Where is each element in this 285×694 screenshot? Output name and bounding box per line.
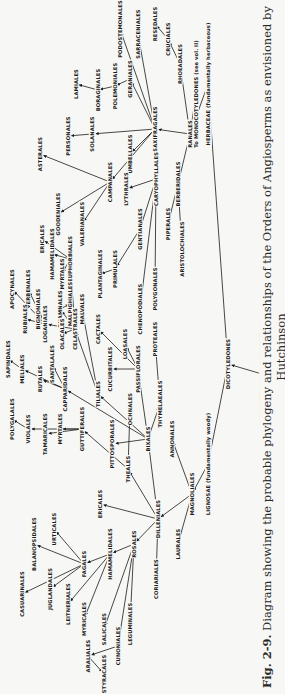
node-rubiales: RUBIALES bbox=[22, 304, 28, 334]
node-rutales: RUTALES bbox=[37, 366, 43, 393]
edge-saxifragales-to-campanales bbox=[113, 129, 155, 179]
node-balanopsidales: BALANOPSIDALES bbox=[31, 517, 37, 571]
edge-capparidales-to-meliales bbox=[26, 371, 65, 389]
node-ericales-top: ERICALES bbox=[39, 225, 45, 254]
edge-guttiferales-to-tamaricales bbox=[49, 429, 82, 433]
node-thymelaeales: THYMELAEALES bbox=[157, 380, 163, 427]
node-bignoniales: BIGNONIALES bbox=[35, 288, 41, 329]
node-apocynales: APOCYNALES bbox=[9, 269, 15, 309]
node-berberidales: BERBERIDALES bbox=[175, 161, 181, 206]
node-leitneriales: LEITNERIALES bbox=[65, 583, 71, 625]
node-aristolochiales: ARISTOLOCHIALES bbox=[179, 221, 185, 276]
node-casuarinales: CASUARINALES bbox=[19, 571, 25, 617]
node-styracales: STYRACALES bbox=[101, 655, 107, 694]
node-geraniales: GERANIALES bbox=[127, 60, 133, 98]
node-caryophyllales: CARYOPHYLLALES bbox=[153, 152, 159, 206]
node-juglandales: JUGLANDALES bbox=[47, 568, 54, 611]
node-santalales: SANTALALES bbox=[49, 345, 55, 383]
node-salicales: SALICALES bbox=[101, 613, 107, 645]
node-fagales: FAGALES bbox=[81, 551, 87, 578]
edge-hypothetical_proangiosperms-to-dicotyledones bbox=[232, 365, 260, 374]
node-magnoliales: MAGNOLIALES bbox=[189, 472, 195, 515]
node-podostemonales: PODOSTEMONALES bbox=[117, 0, 123, 58]
edge-bixales-to-pittosporales bbox=[116, 439, 148, 443]
edge-fagales-to-balanopsidales bbox=[38, 545, 84, 564]
node-euphorbiales: EUPHORBIALES bbox=[67, 236, 73, 282]
node-ranales: RANALES bbox=[187, 120, 193, 148]
node-polemoniales: POLEMONIALES bbox=[112, 62, 118, 109]
node-ericales: ERICALES bbox=[97, 490, 103, 519]
edge-campanales-to-asterales bbox=[44, 155, 110, 182]
node-boraginales: BORAGINALES bbox=[95, 69, 101, 112]
node-resedales: RESEDALES bbox=[152, 7, 158, 42]
node-asterales: ASTERALES bbox=[37, 137, 43, 171]
node-lamiales: LAMIALES bbox=[73, 69, 79, 99]
edge-magnoliales-to-dilleniales bbox=[161, 494, 192, 517]
node-guttiferales: GUTTIFERALES bbox=[79, 407, 85, 452]
phylogeny-diagram: HYPOTHETICAL PROANGIOSPERMSDICOTYLEDONES… bbox=[0, 0, 285, 694]
node-cruciales: CRUCIALES bbox=[165, 22, 171, 55]
node-herbaceae: HERBACEAE (fundamentally herbaceous) bbox=[205, 22, 212, 145]
edge-campanales-to-goodeniales bbox=[61, 182, 110, 212]
node-tiliales: TILIALES bbox=[95, 381, 101, 407]
node-urticales: URTICALES bbox=[51, 512, 57, 545]
node-sapindales: SAPINDALES bbox=[5, 340, 11, 378]
node-coriariales: CORIARIALES bbox=[153, 559, 159, 599]
node-myricales: MYRICALES bbox=[81, 602, 87, 636]
node-violales: VIOLALES bbox=[25, 414, 31, 443]
node-tamaricales: TAMARICALES bbox=[42, 413, 48, 455]
node-loasales: LOASALES bbox=[122, 329, 128, 360]
node-leguminales: LEGUMINALES bbox=[127, 603, 133, 646]
node-laurales: LAURALES bbox=[175, 528, 181, 559]
node-chenopodiales: CHENOPODIALES bbox=[137, 283, 143, 334]
node-araliales: ARALIALES bbox=[85, 639, 91, 672]
node-dilleniales: DILLENIALES bbox=[155, 500, 161, 539]
figure-number: Fig. 2-9. bbox=[260, 635, 274, 688]
node-malvales: MALVALES bbox=[79, 293, 85, 324]
node-goodeniales: GOODENIALES bbox=[55, 192, 61, 235]
label-layer: HYPOTHETICAL PROANGIOSPERMSDICOTYLEDONES… bbox=[5, 0, 260, 694]
node-lignosae: LIGNOSAE (fundamentally woody) bbox=[205, 413, 212, 515]
node-proteales: PROTEALES bbox=[152, 321, 158, 356]
figure-caption: Fig. 2-9. Diagram showing the probable p… bbox=[260, 0, 285, 694]
edge-dilleniales-to-theales bbox=[130, 472, 158, 519]
node-bixales: BIXALES bbox=[145, 426, 151, 451]
figure-caption-text: Diagram showing the probable phylogeny a… bbox=[260, 6, 285, 631]
node-polygalales: POLYGALALES bbox=[9, 398, 15, 440]
node-rhoeadales: RHOEADALES bbox=[177, 44, 183, 84]
node-primulales: PRIMULALES bbox=[112, 250, 118, 288]
node-monocotyledones: To MONOCOTYLEDONES (see vol. II) bbox=[193, 40, 199, 147]
node-ochnales: OCHNALES bbox=[127, 393, 133, 425]
node-cunoniales: CUNONIALES bbox=[115, 627, 121, 666]
node-annonales: ANNONALES bbox=[169, 420, 175, 457]
node-gentianales: GENTIANALES bbox=[137, 208, 143, 250]
node-theales: THEALES bbox=[125, 455, 131, 482]
node-verbenales: VERBENALES bbox=[25, 269, 31, 308]
node-capparidales: CAPPARIDALES bbox=[62, 366, 68, 411]
node-hamamelidales: HAMAMELIDALES bbox=[107, 528, 113, 580]
node-loganiales: LOGANIALES bbox=[42, 305, 48, 343]
node-solanales: SOLANALES bbox=[89, 116, 95, 151]
node-passiflorales: PASSIFLORALES bbox=[135, 345, 141, 393]
node-cactales: CACTALES bbox=[95, 314, 101, 344]
node-polygonales: POLYGONALES bbox=[152, 267, 158, 310]
node-pittosporales: PITTOSPORALES bbox=[109, 419, 115, 468]
node-myrtales: MYRTALES bbox=[57, 413, 63, 444]
node-umbellales: UMBELLALES bbox=[127, 134, 133, 173]
node-saxifragales: SAXIFRAGALES bbox=[152, 106, 158, 151]
node-valerianales: VALERIANALES bbox=[79, 202, 85, 247]
node-meliales: MELIALES bbox=[19, 354, 25, 384]
phylogeny-tree: HYPOTHETICAL PROANGIOSPERMSDICOTYLEDONES… bbox=[0, 0, 260, 694]
edge-saxifragales-to-solanales bbox=[96, 129, 155, 134]
node-campanales: CAMPANALES bbox=[107, 162, 113, 202]
node-myrtales-top: MYRTALES bbox=[59, 258, 65, 289]
node-hydrangeales: HAMAMELIDALES bbox=[49, 228, 55, 280]
node-plantaginales: PLANTAGINALES bbox=[97, 249, 103, 298]
node-personales: PERSONALES bbox=[65, 116, 71, 156]
edge-theales-to-guttiferales bbox=[85, 432, 128, 469]
edge-ranales-to-saxifragales bbox=[159, 130, 190, 134]
node-sarraceniales: SARRACENIALES bbox=[135, 9, 141, 58]
node-celastrales: CELASTRALES bbox=[72, 308, 78, 350]
node-olacales: OLACALES bbox=[59, 318, 65, 349]
node-piperales: PIPERALES bbox=[165, 208, 171, 241]
